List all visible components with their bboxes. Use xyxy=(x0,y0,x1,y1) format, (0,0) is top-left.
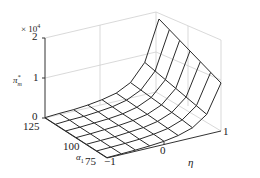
eta-tick-minus1: −1 xyxy=(104,156,116,167)
eta-tick-1: 1 xyxy=(223,126,229,137)
eta-tick-0: 0 xyxy=(160,145,166,156)
z-tick-2: 2 xyxy=(32,31,38,42)
back-grid xyxy=(45,12,221,131)
z-axis-label: π*m xyxy=(13,72,22,90)
eta-axis-label: η xyxy=(188,157,193,168)
z-tick-1: 1 xyxy=(33,72,39,83)
alpha-tick-75: 75 xyxy=(85,156,96,167)
alpha-tick-100: 100 xyxy=(63,141,80,152)
alpha-axis-label: α1 xyxy=(76,152,84,167)
alpha-tick-125: 125 xyxy=(23,121,40,132)
